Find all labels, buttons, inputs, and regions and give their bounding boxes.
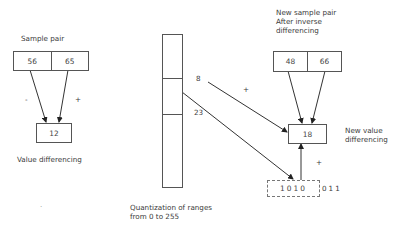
- range-divider-2: [163, 114, 182, 115]
- range-label-lower: 8: [196, 74, 201, 83]
- sample-value-2: 65: [51, 52, 89, 70]
- quantization-range-bar: [162, 34, 183, 188]
- new-sample-pair-box: 48 66: [273, 51, 342, 72]
- new-value-caption-1: New value: [345, 126, 383, 135]
- new-difference-box: 18: [288, 124, 327, 144]
- difference-box: 12: [36, 123, 72, 143]
- value-differencing-caption: Value differencing: [17, 155, 82, 164]
- stray-mark: .: [40, 200, 42, 209]
- embedded-bits-box: 1010: [267, 180, 320, 197]
- range-divider-1: [163, 78, 182, 79]
- quantization-caption-2: from 0 to 255: [130, 212, 179, 221]
- new-pair-title-2: After inverse: [276, 17, 322, 26]
- remaining-bits: 011: [322, 184, 342, 193]
- sample-pair-box: 56 65: [13, 51, 89, 71]
- sample-value-1: 56: [14, 52, 51, 70]
- right-plus-sign: +: [316, 158, 322, 167]
- range-label-upper: 23: [194, 108, 203, 117]
- new-sample-value-2: 66: [307, 52, 341, 71]
- new-pair-title-1: New sample pair: [276, 8, 336, 17]
- minus-sign: -: [25, 95, 28, 104]
- new-sample-value-1: 48: [274, 52, 307, 71]
- quantization-caption-1: Quantization of ranges: [130, 203, 212, 212]
- middle-plus-sign: +: [243, 85, 249, 94]
- sample-pair-title: Sample pair: [21, 34, 64, 43]
- new-value-caption-2: differencing: [345, 135, 388, 144]
- new-pair-title-3: differencing: [276, 26, 319, 35]
- plus-sign: +: [75, 95, 81, 104]
